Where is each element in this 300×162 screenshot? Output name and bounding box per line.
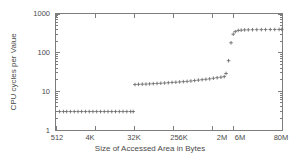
y-axis-title: CPU cycles per Value xyxy=(9,33,18,110)
chart-figure: CPU cycles per Value 1000 100 10 1 512 4… xyxy=(0,0,300,162)
x-tick-label-4k: 4K xyxy=(85,134,94,142)
plot-area xyxy=(55,13,283,131)
x-tick-label-256k: 256K xyxy=(170,134,188,142)
x-tick-label-32k: 32K xyxy=(127,134,140,142)
data-markers xyxy=(56,14,284,132)
x-axis-title: Size of Accessed Area in Bytes xyxy=(95,144,205,153)
y-tick-label-1000: 1000 xyxy=(20,10,50,18)
y-tick-label-100: 100 xyxy=(20,49,50,57)
x-tick-label-2m: 2M xyxy=(217,134,227,142)
y-tick-label-10: 10 xyxy=(20,88,50,96)
y-tick-label-1: 1 xyxy=(20,127,50,135)
x-tick-label-80m: 80M xyxy=(274,134,289,142)
x-tick-label-512: 512 xyxy=(51,134,64,142)
x-tick-label-6m: 6M xyxy=(235,134,245,142)
